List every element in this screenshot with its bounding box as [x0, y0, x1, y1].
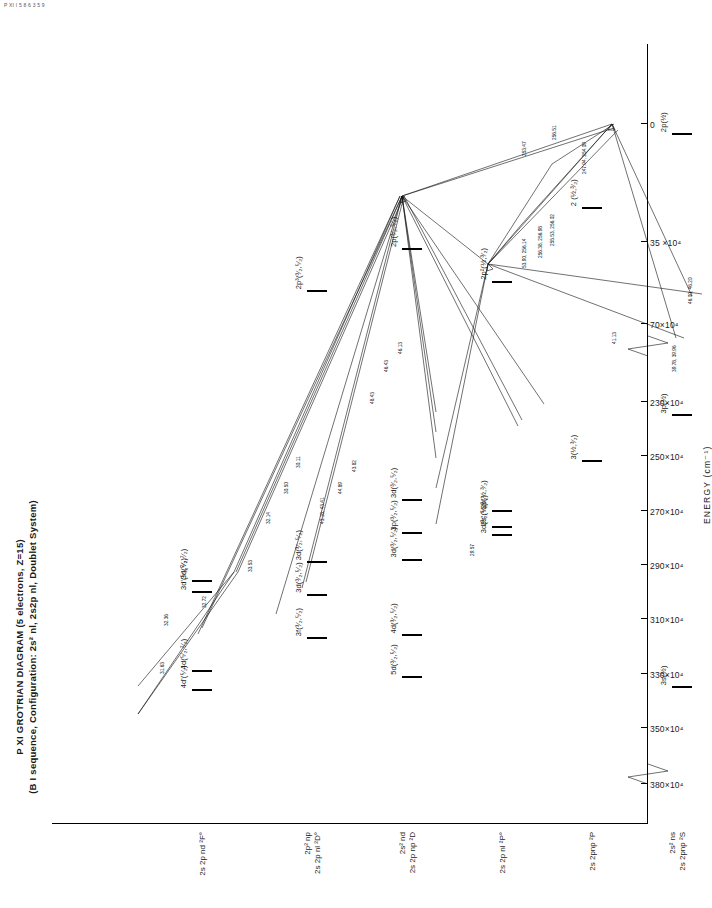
energy-level-label: 4d(³⁄₂,⁵⁄₂): [389, 603, 398, 633]
wavelength-label: 256.51: [552, 125, 557, 140]
energy-level[interactable]: [402, 635, 422, 637]
axis-tick-label: 270×10⁴: [650, 507, 684, 517]
axis-tick: [641, 123, 648, 124]
axis-tick: [641, 241, 648, 242]
axis-tick: [641, 564, 648, 565]
wavelength-label: 46.43: [384, 360, 389, 372]
energy-level[interactable]: [307, 561, 327, 563]
energy-level[interactable]: [492, 526, 512, 528]
plot-area: 380×10⁴350×10⁴330×10⁴310×10⁴290×10⁴270×1…: [52, 44, 648, 824]
energy-level-label: 3d(³⁄₂,⁵⁄₂): [389, 527, 398, 557]
diagram-title: P XI GROTRIAN DIAGRAM (5 electrons, Z=15…: [14, 432, 25, 862]
energy-axis-title: ENERGY (cm⁻¹): [702, 445, 712, 524]
energy-level[interactable]: [672, 686, 692, 688]
column-head-bottom: 2s 2pnp ²S: [678, 832, 688, 898]
energy-level[interactable]: [192, 670, 212, 672]
energy-level[interactable]: [672, 133, 692, 135]
axis-tick-label: 380×10⁴: [650, 780, 684, 790]
energy-level-label: 2p³(³⁄₂,⁵⁄₂): [294, 256, 303, 289]
wavelength-label: 32.72: [202, 596, 207, 608]
energy-level-label: 2p(½): [659, 112, 668, 132]
column-header-c5: 2p² np2s 2p nl ²D°: [303, 832, 323, 898]
energy-level[interactable]: [192, 580, 212, 582]
axis-tick: [641, 673, 648, 674]
energy-level-label: 3p(³⁄₂,⁵⁄₂): [389, 500, 398, 530]
wavelength-label: 30.50: [284, 482, 289, 494]
energy-level[interactable]: [402, 499, 422, 501]
wavelength-label: 253.47: [522, 141, 527, 156]
energy-level-label: 3p(½): [659, 393, 668, 413]
axis-tick: [641, 618, 648, 619]
energy-level[interactable]: [307, 594, 327, 596]
column-head-top: 2s² nd: [398, 832, 408, 898]
energy-level-label: 5d(³⁄₂,⁵⁄₂): [389, 644, 398, 674]
energy-level-label: 3d(⁵⁄₂,⁷⁄₂): [179, 549, 188, 580]
axis-tick: [641, 727, 648, 728]
wavelength-label: 32.36: [164, 614, 169, 626]
energy-level-label: 2p²(½,³⁄₂): [479, 248, 488, 280]
column-header-c2: 2s 2pnp ²P: [578, 832, 598, 898]
energy-level[interactable]: [192, 591, 212, 593]
wavelength-label: 255.53, 256.02: [550, 214, 555, 246]
energy-level-label: 3d(³⁄₂,⁵⁄₂): [294, 562, 303, 592]
column-header-c1: 2s² ns2s 2pnp ²S: [668, 832, 688, 898]
energy-level-label: 3d(³⁄₂,⁵⁄₂): [389, 468, 398, 498]
energy-level-label: 2 (½,³⁄₂): [569, 179, 578, 206]
wavelength-label: 29.57: [470, 544, 475, 556]
energy-level[interactable]: [492, 534, 512, 536]
energy-level[interactable]: [582, 207, 602, 209]
wavelength-label: 247.94, 254.09: [582, 142, 587, 174]
energy-level[interactable]: [582, 461, 602, 463]
column-head-bottom: 2s 2p np ²D: [408, 832, 418, 898]
energy-level-label: 3f(³⁄₂,⁵⁄₂): [294, 608, 303, 636]
axis-tick: [641, 323, 648, 324]
column-head-top: [188, 832, 198, 898]
energy-level[interactable]: [402, 532, 422, 534]
energy-level[interactable]: [402, 248, 422, 250]
wavelength-label: 30.11: [296, 456, 301, 468]
energy-level[interactable]: [492, 510, 512, 512]
column-head-top: [488, 832, 498, 898]
diagram-subtitle: (B I sequence, Configuration: 2s² nl, 2s…: [27, 432, 38, 862]
energy-level-label: 3d(³⁄₂,⁵⁄₂): [294, 530, 303, 560]
energy-level[interactable]: [672, 415, 692, 417]
wavelength-label: 33.53: [248, 560, 253, 572]
wavelength-label: 43.18, 43.41: [320, 497, 325, 524]
energy-level[interactable]: [307, 637, 327, 639]
energy-level-label: 3s(½,³⁄₂): [479, 480, 488, 509]
column-head-bottom: 2s 2pnp ²P: [588, 832, 598, 898]
transition-lines: [52, 44, 648, 824]
energy-level-label: 2p(³⁄₂,⁵⁄₂): [389, 217, 398, 247]
column-header-c4: 2s² nd2s 2p np ²D: [398, 832, 418, 898]
energy-level[interactable]: [492, 281, 512, 283]
wavelength-label: 44.89: [338, 482, 343, 494]
column-header-c6: 2s 2p nd ²F°: [188, 832, 208, 898]
wavelength-label: 31.63: [160, 662, 165, 674]
wavelength-label: 32.14: [266, 512, 271, 524]
wavelength-label: 48.43: [370, 392, 375, 404]
axis-tick-label: 35 ×10⁴: [650, 238, 681, 248]
wavelength-label: 256.38, 256.98: [538, 226, 543, 258]
axis-tick-label: 290×10⁴: [650, 561, 684, 571]
energy-level[interactable]: [402, 676, 422, 678]
energy-level[interactable]: [307, 290, 327, 292]
axis-tick: [641, 783, 648, 784]
column-head-bottom: 2s 2p nd ²F°: [198, 832, 208, 898]
energy-level[interactable]: [402, 559, 422, 561]
wavelength-label: 41.13: [612, 332, 617, 344]
axis-tick-label: 70×10⁴: [650, 320, 679, 330]
axis-tick: [641, 401, 648, 402]
energy-level[interactable]: [192, 689, 212, 691]
column-head-top: 2s² ns: [668, 832, 678, 898]
axis-tick: [641, 510, 648, 511]
axis-tick-label: 250×10⁴: [650, 452, 684, 462]
energy-level-label: 4d(⁵⁄₂,⁷⁄₂): [179, 639, 188, 670]
title-block: P XI GROTRIAN DIAGRAM (5 electrons, Z=15…: [14, 432, 38, 862]
wavelength-label: 46.13: [398, 342, 403, 354]
column-head-top: 2p² np: [303, 832, 313, 898]
wavelength-label: 43.82: [352, 460, 357, 472]
axis-tick-label: 350×10⁴: [650, 724, 684, 734]
wavelength-label: 46.00, 46.20: [688, 277, 693, 304]
energy-level-label: 3(½,³⁄₂): [569, 435, 578, 460]
